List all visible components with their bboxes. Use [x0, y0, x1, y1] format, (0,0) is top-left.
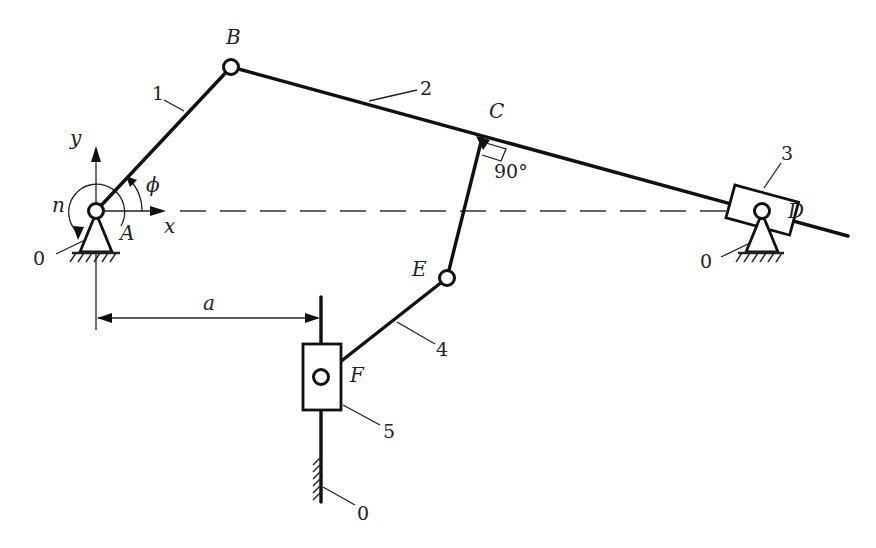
link-2-label: 2: [420, 77, 432, 99]
point-f-label: F: [349, 363, 365, 387]
ground-guide-leader: [323, 487, 355, 505]
joint-d: [755, 204, 770, 219]
slider-3-label: 3: [781, 142, 793, 164]
link-1-leader: [164, 100, 184, 111]
ground-a-label: 0: [33, 247, 45, 269]
slider-5-label: 5: [383, 420, 395, 442]
y-axis-label: y: [69, 126, 82, 150]
link-2-leader: [369, 90, 417, 101]
joint-e: [440, 271, 455, 286]
point-e-label: E: [411, 257, 427, 281]
joint-a: [89, 204, 104, 219]
link-4-label: 4: [436, 338, 448, 360]
right-angle-label: 90°: [494, 160, 528, 182]
point-b-label: B: [225, 25, 241, 49]
point-c-label: C: [489, 99, 504, 123]
ground-d-label: 0: [700, 250, 712, 272]
mechanism-diagram: y x ϕ n 90° 0 A B 1 2 C: [0, 0, 876, 548]
x-axis-label: x: [164, 214, 175, 238]
dimension-a-label: a: [203, 291, 215, 315]
ground-guide-label: 0: [357, 502, 369, 524]
rotation-n-label: n: [52, 193, 65, 217]
link-4-leader: [397, 322, 435, 344]
point-d-label: D: [787, 199, 804, 223]
slider-5-leader: [343, 405, 380, 425]
y-axis-arrow-icon: [91, 146, 101, 162]
ground-d-leader: [721, 244, 748, 257]
dimension-arrow-left-icon: [97, 313, 112, 323]
joint-f: [314, 370, 329, 385]
joint-b: [224, 60, 239, 75]
phi-label: ϕ: [146, 173, 160, 197]
link-1-label: 1: [152, 82, 164, 104]
rotation-arrow-icon: [73, 226, 84, 240]
slider-3-leader: [764, 163, 781, 188]
link-ce: [447, 138, 482, 278]
point-a-label: A: [118, 221, 134, 245]
dimension-arrow-right-icon: [305, 313, 320, 323]
